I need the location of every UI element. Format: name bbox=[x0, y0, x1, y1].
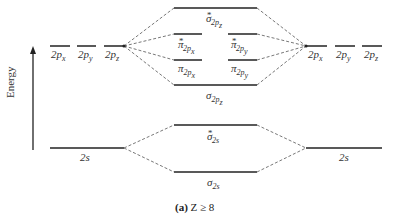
left-2s-label: 2s bbox=[80, 152, 90, 163]
pi-star-2px-label: π*2px bbox=[178, 37, 195, 56]
sigma-star-2s-label: σ*2s bbox=[207, 129, 219, 145]
sigma-2pz-label: σ2pz bbox=[206, 90, 223, 107]
left-2py-label: 2py bbox=[78, 49, 93, 63]
left-2p-node bbox=[122, 44, 125, 47]
pi-star-2py-label: π*2py bbox=[231, 37, 248, 56]
right-2pz-label: 2pz bbox=[364, 49, 378, 63]
sigma-2s-label: σ2s bbox=[207, 177, 220, 191]
pi-2py-label: π2py bbox=[231, 63, 248, 80]
left-2px-label: 2px bbox=[51, 49, 66, 63]
pi-2px-label: π2px bbox=[178, 63, 195, 80]
energy-axis-arrow bbox=[30, 46, 36, 150]
mo-diagram-canvas bbox=[0, 0, 401, 219]
figure-caption: (a) Z ≥ 8 bbox=[175, 201, 214, 213]
right-2s-label: 2s bbox=[339, 152, 349, 163]
sigma-star-2pz-label: σ*2pz bbox=[206, 11, 222, 30]
right-2py-label: 2py bbox=[336, 49, 351, 63]
left-2pz-label: 2pz bbox=[105, 49, 119, 63]
right-2px-label: 2px bbox=[308, 49, 323, 63]
energy-axis-label: Energy bbox=[4, 66, 16, 98]
